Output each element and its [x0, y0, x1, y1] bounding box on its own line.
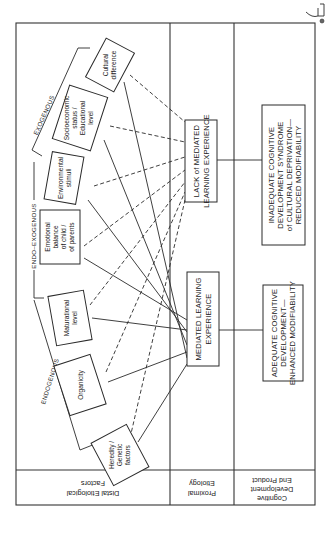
factor-socioeconomic-line2: status / — [71, 107, 78, 128]
row-header-product-line1: Cognitive — [257, 494, 287, 503]
row-header-product-line3: End Product — [252, 476, 292, 485]
row-header-distal-line1: Distal Etiological — [66, 489, 119, 498]
row-header-proximal-line1: Proximal — [188, 489, 216, 498]
adequate-line2: DEVELOPMENT— — [279, 299, 288, 367]
factor-hereditary-line2: Genetic — [116, 443, 123, 466]
box-adequate-development: ADEQUATE COGNITIVE DEVELOPMENT— ENHANCED… — [263, 281, 303, 385]
factor-cultural-line2: difference — [110, 50, 117, 79]
row-header-distal-line2: Factors — [81, 479, 105, 488]
row-header-product-line2: Development — [251, 485, 293, 494]
factor-maturational-line2: level — [71, 311, 78, 325]
factor-maturational-line1: Maturational — [63, 299, 70, 336]
row-header-proximal-line2: Etiology — [189, 479, 215, 488]
factor-environmental-line1: Environmental — [57, 156, 64, 199]
adequate-line1: ADEQUATE COGNITIVE — [270, 289, 279, 378]
factor-environmental-line2: stimuli — [65, 168, 72, 187]
factor-socioeconomic-line3: Educational — [79, 100, 86, 135]
factor-emotional-line1: Emotional — [44, 222, 51, 252]
box-inadequate-development: INADEQUATE COGNITIVE DEVELOPMENT SYNDROM… — [262, 105, 305, 245]
mle-line2: EXPERIENCE — [204, 294, 213, 345]
adequate-line3: ENHANCED MODIFIABILITY — [288, 281, 297, 385]
factor-cultural-line1: Cultural — [102, 53, 109, 76]
inadequate-line2: DEVELOPMENT SYNDROME — [276, 121, 285, 228]
lack-mle-line2: LEARNING EXPERIENCE — [202, 114, 211, 208]
inadequate-line4: REDUCED MODIFIABILITY — [294, 126, 303, 225]
row-header-proximal: Proximal Etiology — [188, 479, 216, 498]
factor-box-maturational: Maturational level — [48, 290, 92, 345]
etiology-diagram: Distal Etiological Factors Proximal Etio… — [0, 0, 331, 536]
factor-socioeconomic-line4: level — [87, 111, 94, 125]
box-lack-of-mle: LACK of MEDIATED LEARNING EXPERIENCE — [185, 114, 217, 208]
lack-mle-line1: LACK of MEDIATED — [192, 125, 201, 198]
factor-box-environmental: Environmental stimuli — [44, 152, 84, 205]
inadequate-line1: INADEQUATE COGNITIVE — [267, 127, 276, 224]
factor-emotional-line2: balance — [52, 225, 59, 248]
factor-box-cultural: Cultural difference — [86, 38, 135, 92]
factor-organicity-line1: Organicity — [77, 369, 85, 399]
box-mle: MEDIATED LEARNING EXPERIENCE — [187, 272, 219, 366]
mle-line1: MEDIATED LEARNING — [194, 277, 203, 360]
inadequate-line3: of CULTURAL DEPRIVATION— — [285, 119, 294, 232]
group-label-endo-exogenous: ENDO–EXOGENOUS — [30, 203, 37, 268]
factor-emotional-line3: of child / — [60, 225, 67, 250]
factor-box-emotional: Emotional balance of child / of parents — [40, 210, 80, 264]
factor-hereditary-line3: factors — [124, 444, 131, 464]
factor-hereditary-line1: Heredity / — [108, 441, 116, 469]
corner-mark-icon — [306, 4, 324, 23]
factor-box-socioeconomic: Socioeconomic status / Educational level — [49, 84, 108, 151]
factor-socioeconomic-line1: Socioeconomic — [63, 95, 70, 140]
group-label-exogenous: EXOGENOUS — [32, 94, 56, 136]
factor-box-hereditary: Heredity / Genetic factors — [91, 424, 149, 485]
factor-emotional-line4: of parents — [68, 222, 76, 252]
row-header-product: Cognitive Development End Product — [251, 476, 293, 503]
